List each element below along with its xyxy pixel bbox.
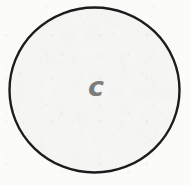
figure-canvas: c	[0, 0, 191, 185]
circle-diagram	[0, 0, 191, 185]
circle-fill-texture	[11, 9, 179, 171]
